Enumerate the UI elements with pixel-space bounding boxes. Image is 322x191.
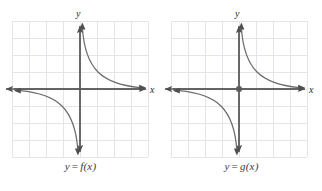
caption-g-rhs: g(x) bbox=[240, 160, 259, 172]
x-axis-label-f: x bbox=[149, 84, 155, 95]
arrow-f-q1-right bbox=[139, 85, 146, 91]
caption-g: y=g(x) bbox=[161, 160, 322, 172]
arrow-g-q1-right bbox=[298, 85, 305, 91]
graph-panel-f: y x y=f(x) bbox=[0, 0, 161, 191]
graph-svg-g: y x bbox=[161, 0, 322, 165]
two-graph-figure: y x y=f(x) bbox=[0, 0, 322, 191]
caption-g-equals: = bbox=[230, 160, 240, 172]
caption-f-rhs: f(x) bbox=[80, 160, 96, 172]
x-axis-label-g: x bbox=[308, 84, 314, 95]
origin-point-marker-g bbox=[236, 86, 241, 91]
y-axis-label-f: y bbox=[75, 8, 81, 19]
graph-panel-g: y x y=g(x) bbox=[161, 0, 322, 191]
caption-f-equals: = bbox=[70, 160, 80, 172]
graph-svg-f: y x bbox=[0, 0, 161, 165]
caption-g-lhs: y bbox=[224, 160, 229, 172]
plot-area-g: y x bbox=[161, 0, 322, 165]
y-axis-label-g: y bbox=[234, 8, 240, 19]
plot-area-f: y x bbox=[0, 0, 161, 165]
caption-f: y=f(x) bbox=[0, 160, 161, 172]
